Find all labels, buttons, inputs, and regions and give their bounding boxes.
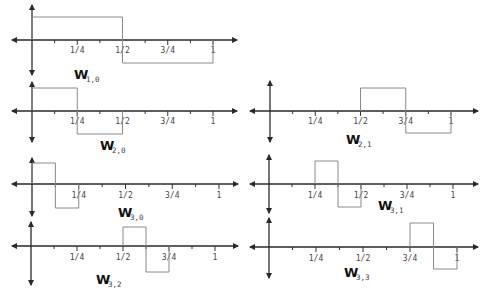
tick-label: 1 [213, 253, 218, 262]
tick-label: 1 [217, 191, 222, 200]
tick-label: 3/4 [161, 117, 176, 126]
wavelet-subscript: 3,2 [108, 280, 122, 289]
wavelet-panel-w-2-1: 1/41/23/41W2,1 [250, 81, 478, 149]
haar-wavelet-diagram: 1/41/23/41W1,01/41/23/41W2,01/41/23/41W2… [0, 0, 482, 295]
wavelet-subscript: 1,0 [86, 75, 100, 84]
wavelet-panel-w-3-3: 1/41/23/41W3,3 [250, 218, 478, 282]
wavelet-subscript: 3,0 [130, 213, 144, 222]
tick-label: 3/4 [161, 46, 176, 55]
tick-label: 3/4 [403, 254, 418, 263]
tick-label: 1/4 [70, 46, 85, 55]
tick-label: 1 [451, 191, 456, 200]
tick-label: 1 [211, 117, 216, 126]
wavelet-panel-w-2-0: 1/41/23/41W2,0 [12, 82, 237, 155]
tick-label: 1/4 [308, 117, 323, 126]
wavelet-panel-w-3-2: 1/41/23/41W3,2 [12, 222, 238, 289]
wavelet-panel-w-3-1: 1/41/23/41W3,1 [250, 155, 478, 215]
wavelet-subscript: 3,3 [356, 273, 370, 282]
haar-wavelet-curve [32, 163, 79, 208]
haar-wavelet-curve [123, 227, 169, 272]
wavelet-panel-w-3-0: 1/41/23/41W3,0 [12, 158, 238, 222]
wavelet-subscript: 3,1 [390, 206, 404, 215]
tick-label: 1/2 [116, 253, 131, 262]
tick-label: 1/2 [356, 254, 371, 263]
tick-label: 1/2 [353, 117, 368, 126]
wavelet-subscript: 2,0 [112, 146, 126, 155]
tick-label: 1/4 [309, 254, 324, 263]
wavelet-subscript: 2,1 [358, 140, 372, 149]
tick-label: 1/4 [308, 191, 323, 200]
tick-label: 3/4 [400, 191, 415, 200]
tick-label: 1/4 [70, 253, 85, 262]
wavelet-panel-w-1-0: 1/41/23/41W1,0 [12, 5, 237, 84]
tick-label: 3/4 [165, 191, 180, 200]
tick-label: 1/2 [118, 191, 133, 200]
